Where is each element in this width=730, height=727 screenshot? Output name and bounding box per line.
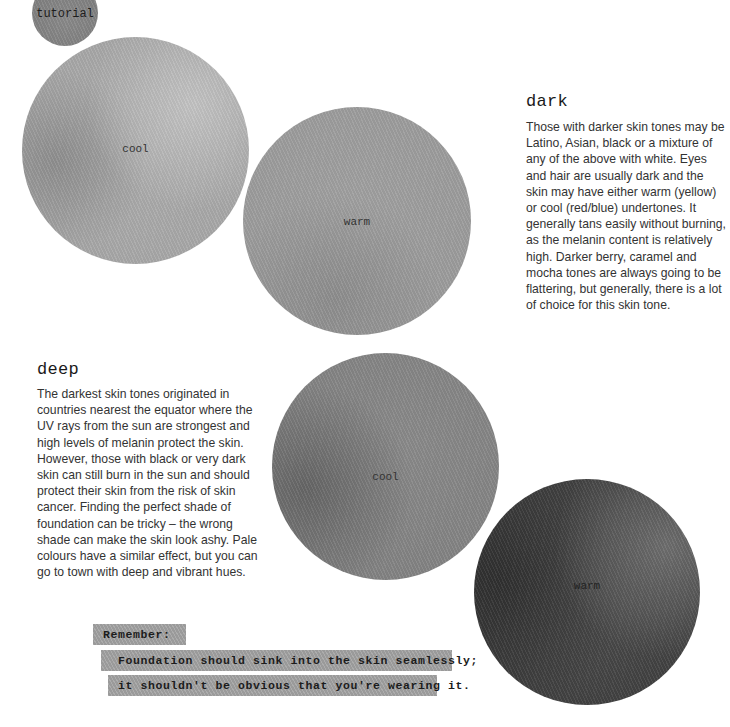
swatch-dark-cool: cool [22, 37, 249, 264]
tutorial-badge: tutorial [32, 0, 98, 46]
swatch-label-cool: cool [22, 143, 249, 155]
callout-line-1: Foundation should sink into the skin sea… [101, 650, 452, 671]
section-heading-deep: deep [37, 360, 79, 379]
section-heading-dark: dark [526, 92, 568, 111]
swatch-deep-cool: cool [272, 353, 499, 580]
section-body-deep: The darkest skin tones originated in cou… [37, 386, 259, 580]
tutorial-label: tutorial [32, 7, 98, 21]
section-body-dark: Those with darker skin tones may be Lati… [526, 119, 726, 313]
swatch-dark-warm: warm [243, 107, 471, 335]
swatch-label-warm: warm [474, 580, 700, 592]
swatch-label-cool: cool [272, 471, 499, 483]
callout-title: Remember: [93, 624, 186, 645]
swatch-deep-warm: warm [474, 479, 700, 705]
swatch-label-warm: warm [243, 216, 471, 228]
callout-line-2: it shouldn't be obvious that you're wear… [108, 675, 437, 696]
